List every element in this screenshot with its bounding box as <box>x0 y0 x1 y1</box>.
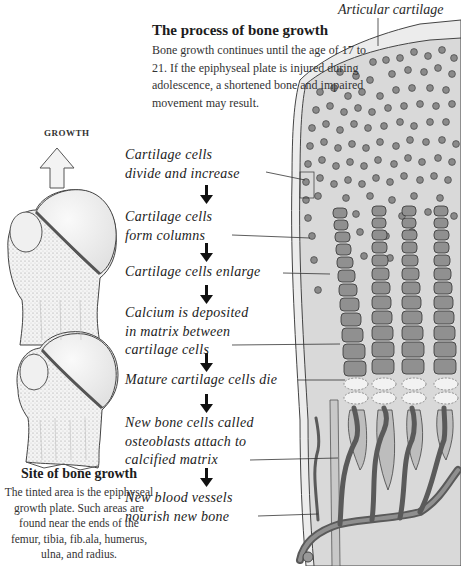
step-4-line-3: cartilage cells <box>125 341 248 360</box>
growth-arrow-icon <box>40 148 74 188</box>
step-4: Calcium is deposited in matrix between c… <box>125 304 248 360</box>
growth-label: GROWTH <box>44 128 90 138</box>
bone-drawing <box>8 148 118 470</box>
step-1-line-1: Cartilage cells <box>125 146 240 165</box>
step-3-line-1: Cartilage cells enlarge <box>125 263 260 282</box>
diagram-title: The process of bone growth <box>152 22 328 39</box>
down-arrow-icon <box>200 243 213 262</box>
step-2-line-2: form columns <box>125 227 212 246</box>
step-6: New bone cells called osteoblasts attach… <box>125 414 254 470</box>
step-6-line-1: New bone cells called <box>125 414 254 433</box>
step-6-line-2: osteoblasts attach to <box>125 433 254 452</box>
intro-paragraph: Bone growth continues until the age of 1… <box>152 42 367 112</box>
step-4-line-2: in matrix between <box>125 323 248 342</box>
step-5: Mature cartilage cells die <box>125 371 277 390</box>
articular-cartilage-label: Articular cartilage <box>338 2 443 18</box>
down-arrow-icon <box>200 185 213 204</box>
step-1-line-2: divide and increase <box>125 165 240 184</box>
step-5-line-1: Mature cartilage cells die <box>125 371 277 390</box>
down-arrow-icon <box>200 285 213 304</box>
step-4-line-1: Calcium is deposited <box>125 304 248 323</box>
site-title: Site of bone growth <box>6 466 152 482</box>
step-2-line-1: Cartilage cells <box>125 208 212 227</box>
step-2: Cartilage cells form columns <box>125 208 212 245</box>
site-description: The tinted area is the epiphyseal growth… <box>4 485 154 563</box>
down-arrow-icon <box>200 394 213 413</box>
step-3: Cartilage cells enlarge <box>125 263 260 282</box>
step-1: Cartilage cells divide and increase <box>125 146 240 183</box>
down-arrow-icon <box>200 468 213 487</box>
